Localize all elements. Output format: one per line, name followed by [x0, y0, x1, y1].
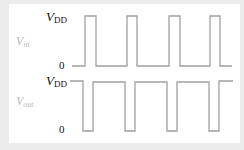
vin-waveform: [72, 16, 232, 66]
waveforms: [0, 0, 244, 150]
vout-waveform: [70, 81, 233, 131]
